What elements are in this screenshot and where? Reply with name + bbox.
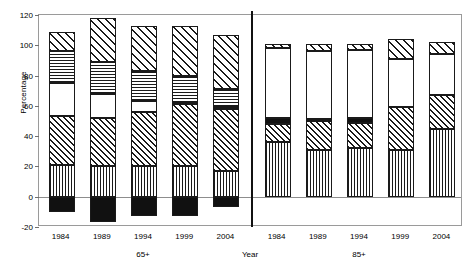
panel-divider — [251, 11, 253, 227]
bar-segment-diagonal-hatch[interactable] — [49, 116, 75, 164]
bar-segment-black-solid[interactable] — [213, 197, 239, 208]
bar-segment-white[interactable] — [49, 83, 75, 116]
bar-segment-diagonal-hatch[interactable] — [213, 109, 239, 171]
bar-segment-diagonal-hatch-wide[interactable] — [347, 44, 373, 50]
bar-segment-diagonal-hatch[interactable] — [90, 118, 116, 166]
x-axis-tick-label: 1989 — [93, 232, 111, 241]
bar-segment-diagonal-hatch[interactable] — [172, 104, 198, 166]
x-axis-tick-label: 1994 — [134, 232, 152, 241]
y-axis-tick-label: 0 — [29, 192, 33, 201]
bar-segment-vertical-lines[interactable] — [90, 166, 116, 196]
bar-85plus-1989[interactable] — [306, 15, 332, 227]
x-axis-tick-label: 1999 — [175, 232, 193, 241]
bar-segment-horizontal-lines[interactable] — [49, 51, 75, 83]
bar-segment-diagonal-hatch-wide[interactable] — [306, 44, 332, 52]
bar-segment-black-solid[interactable] — [131, 197, 157, 217]
y-axis-tick — [35, 76, 39, 77]
bar-segment-vertical-lines[interactable] — [49, 165, 75, 197]
y-axis-tick-label: 100 — [20, 41, 33, 50]
bar-85plus-2004[interactable] — [429, 15, 455, 227]
bar-65plus-1984[interactable] — [49, 15, 75, 227]
bar-segment-vertical-lines[interactable] — [306, 150, 332, 197]
y-axis-title: Percentage — [19, 48, 28, 138]
bar-segment-diagonal-hatch-wide[interactable] — [49, 32, 75, 52]
y-axis-tick-label: 60 — [24, 101, 33, 110]
bar-segment-diagonal-hatch[interactable] — [131, 112, 157, 167]
bar-segment-diagonal-hatch-wide[interactable] — [265, 44, 291, 49]
bar-segment-diagonal-hatch[interactable] — [347, 123, 373, 149]
x-axis-tick-label: 2004 — [216, 232, 234, 241]
y-axis-tick — [35, 45, 39, 46]
x-axis-tick-label: 2004 — [432, 232, 450, 241]
chart-figure: Percentage -20020406080100120 1984198919… — [0, 0, 471, 272]
bar-segment-horizontal-lines[interactable] — [213, 89, 239, 107]
bar-segment-vertical-lines[interactable] — [347, 148, 373, 196]
y-axis-tick-label: 20 — [24, 162, 33, 171]
y-axis-tick — [35, 106, 39, 107]
bar-segment-white[interactable] — [429, 54, 455, 95]
bar-segment-horizontal-lines[interactable] — [172, 76, 198, 103]
bar-segment-white[interactable] — [388, 59, 414, 107]
bar-segment-black-solid[interactable] — [347, 118, 373, 123]
y-axis-tick — [35, 136, 39, 137]
bar-segment-vertical-lines[interactable] — [429, 129, 455, 197]
bar-85plus-1984[interactable] — [265, 15, 291, 227]
bar-segment-horizontal-lines[interactable] — [90, 62, 116, 94]
bar-segment-diagonal-hatch-wide[interactable] — [131, 26, 157, 71]
bar-segment-white[interactable] — [347, 50, 373, 118]
bar-segment-vertical-lines[interactable] — [265, 142, 291, 197]
bar-segment-white[interactable] — [90, 94, 116, 118]
plot-area: -20020406080100120 — [38, 14, 462, 226]
panel-title-85plus: 85+ — [352, 250, 366, 259]
bar-segment-diagonal-hatch-wide[interactable] — [388, 39, 414, 59]
bar-85plus-1999[interactable] — [388, 15, 414, 227]
bar-segment-diagonal-hatch[interactable] — [265, 124, 291, 142]
y-axis-tick — [35, 15, 39, 16]
bar-65plus-1994[interactable] — [131, 15, 157, 227]
panel-title-65plus: 65+ — [136, 250, 150, 259]
y-axis-tick-label: 80 — [24, 71, 33, 80]
y-axis-tick — [35, 197, 39, 198]
bar-segment-diagonal-hatch-wide[interactable] — [172, 26, 198, 76]
bar-segment-vertical-lines[interactable] — [388, 150, 414, 197]
bar-segment-vertical-lines[interactable] — [131, 166, 157, 196]
plot-surface — [39, 15, 461, 225]
x-axis-tick-label: 1999 — [391, 232, 409, 241]
y-axis-tick-label: -20 — [21, 223, 33, 232]
bar-segment-black-solid[interactable] — [306, 119, 332, 121]
bar-segment-vertical-lines[interactable] — [213, 171, 239, 197]
bar-segment-black-solid[interactable] — [90, 197, 116, 223]
bar-segment-white[interactable] — [265, 48, 291, 118]
bar-segment-diagonal-hatch-wide[interactable] — [90, 18, 116, 62]
bar-segment-black-solid[interactable] — [49, 197, 75, 212]
x-axis-tick-label: 1994 — [350, 232, 368, 241]
bar-segment-white[interactable] — [306, 51, 332, 119]
bar-segment-diagonal-hatch[interactable] — [306, 121, 332, 150]
x-axis-title: Year — [242, 250, 258, 259]
y-axis-tick-label: 120 — [20, 11, 33, 20]
bar-65plus-1999[interactable] — [172, 15, 198, 227]
x-axis-tick-label: 1989 — [309, 232, 327, 241]
bar-85plus-1994[interactable] — [347, 15, 373, 227]
bar-65plus-1989[interactable] — [90, 15, 116, 227]
bar-segment-white[interactable] — [131, 101, 157, 112]
bar-segment-white[interactable] — [213, 107, 239, 109]
bar-segment-white[interactable] — [172, 103, 198, 105]
bar-segment-diagonal-hatch[interactable] — [429, 95, 455, 128]
y-axis-tick-label: 40 — [24, 132, 33, 141]
bar-65plus-2004[interactable] — [213, 15, 239, 227]
y-axis-tick — [35, 166, 39, 167]
bar-segment-diagonal-hatch-wide[interactable] — [213, 35, 239, 90]
bar-segment-diagonal-hatch[interactable] — [388, 107, 414, 149]
x-axis-tick-label: 1984 — [268, 232, 286, 241]
bar-segment-black-solid[interactable] — [265, 118, 291, 124]
bar-segment-diagonal-hatch-wide[interactable] — [429, 42, 455, 54]
bar-segment-horizontal-lines[interactable] — [131, 71, 157, 101]
bar-segment-black-solid[interactable] — [172, 197, 198, 217]
y-axis-tick — [35, 227, 39, 228]
bar-segment-vertical-lines[interactable] — [172, 166, 198, 196]
x-axis-tick-label: 1984 — [52, 232, 70, 241]
